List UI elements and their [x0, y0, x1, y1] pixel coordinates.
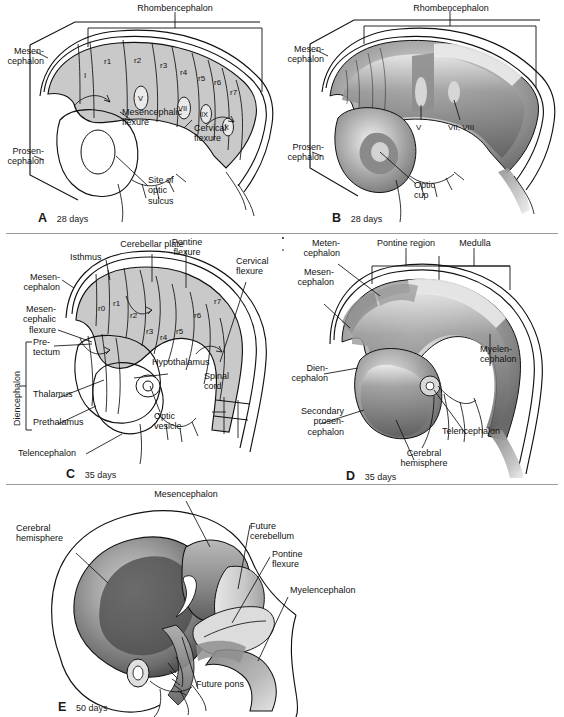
- label-secondary-prosencephalon-d: Secondary prosen- cephalon: [284, 406, 344, 437]
- panel-letter-a: A: [38, 211, 47, 225]
- panel-d: Meten- cephalon Pontine region Medulla M…: [284, 234, 564, 484]
- segment-r4-c: r4: [160, 333, 168, 342]
- segment-r6-a: r6: [214, 78, 222, 87]
- segment-r6-c: r6: [194, 311, 202, 320]
- label-mesencephalon-d: Mesen- cephalon: [284, 267, 334, 288]
- panel-e: Mesencephalon Cerebral hemisphere Future…: [0, 485, 564, 717]
- label-medulla-d: Medulla: [448, 238, 502, 248]
- panel-a: Rhombencephalon Mesen- cephalon Prosen- …: [0, 0, 284, 233]
- label-future-cerebellum-e: Future cerebellum: [250, 521, 294, 542]
- segment-r7-c: r7: [214, 297, 222, 306]
- label-future-pons-e: Future pons: [196, 679, 244, 689]
- ganglion-V-a: V: [138, 94, 143, 103]
- panel-label-d: D 35 days: [346, 466, 396, 484]
- panel-label-c: C 35 days: [66, 464, 116, 482]
- segment-r1-c: r1: [113, 299, 121, 308]
- panel-days-b: 28 days: [351, 214, 383, 224]
- panel-letter-c: C: [66, 467, 75, 481]
- panel-days-e: 50 days: [76, 703, 108, 713]
- label-cerebral-hemisphere-e: Cerebral hemisphere: [16, 523, 63, 544]
- segment-r2-a: r2: [134, 56, 142, 65]
- panel-b: Rhombencephalon Mesen- cephalon Prosen- …: [284, 0, 564, 233]
- panel-c: Cerebellar plate Pontine flexure Isthmus…: [0, 234, 284, 484]
- panel-letter-e: E: [58, 700, 67, 714]
- segment-r3-c: r3: [146, 327, 154, 336]
- panel-letter-d: D: [346, 469, 355, 483]
- panel-label-a: A 28 days: [38, 208, 88, 226]
- segment-r5-a: r5: [198, 74, 206, 83]
- panel-days-a: 28 days: [57, 214, 89, 224]
- segment-I-a: I: [84, 71, 86, 80]
- label-myelencephalon-d: Myelen- cephalon: [480, 344, 517, 365]
- segment-r2-c: r2: [130, 311, 138, 320]
- ganglion-V-b: V: [416, 123, 422, 132]
- panel-e-drawing: [0, 485, 564, 717]
- segment-r3-a: r3: [160, 61, 168, 70]
- panel-c-segment-text: r0 r1 r2 r3 r4 r5 r6 r7: [0, 234, 284, 484]
- label-pontine-flexure-e: Pontine flexure: [272, 549, 303, 570]
- label-diencephalon-d: Dien- cephalon: [284, 363, 328, 384]
- panel-days-d: 35 days: [365, 472, 397, 482]
- panel-b-ganglion-text: V VII, VIII: [284, 0, 564, 233]
- label-mesencephalon-e: Mesencephalon: [138, 489, 234, 499]
- panel-days-c: 35 days: [85, 470, 117, 480]
- panel-a-segment-text: I r1 r2 r3 r4 r5 r6 r7 V VII IX X: [0, 0, 284, 233]
- panel-label-e: E 50 days: [58, 697, 108, 715]
- panel-letter-b: B: [332, 211, 341, 225]
- ganglion-VII-VIII-b: VII, VIII: [448, 123, 474, 132]
- label-myelencephalon-e: Myelencephalon: [290, 585, 356, 595]
- ganglion-VII-a: VII: [178, 104, 187, 113]
- ganglion-IX-a: IX: [201, 110, 208, 119]
- label-metencephalon-d: Meten- cephalon: [284, 238, 340, 259]
- segment-r0-c: r0: [98, 304, 106, 313]
- label-telencephalon-d: Telencephalon: [442, 426, 500, 436]
- segment-r5-c: r5: [176, 327, 184, 336]
- figure-root: Rhombencephalon Mesen- cephalon Prosen- …: [0, 0, 564, 717]
- segment-r4-a: r4: [180, 68, 188, 77]
- panel-label-b: B 28 days: [332, 208, 382, 226]
- label-pontine-region-d: Pontine region: [360, 238, 452, 248]
- segment-r1-a: r1: [104, 57, 112, 66]
- ganglion-X-a: X: [224, 123, 229, 132]
- segment-r7-a: r7: [230, 88, 238, 97]
